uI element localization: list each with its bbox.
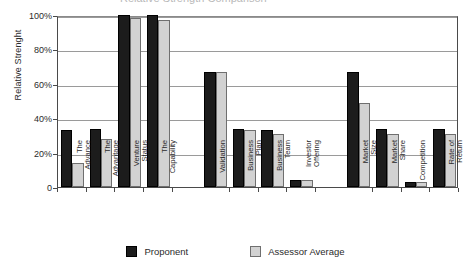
x-axis-label: Investor Offering [305, 140, 322, 192]
bar [61, 130, 72, 187]
y-axis-tickmark [53, 50, 57, 51]
legend-label: Proponent [144, 246, 188, 257]
clipped-title: Relative Strength Comparison [0, 0, 471, 8]
x-axis-label: Market Size [362, 140, 379, 192]
clipped-title-text: Relative Strength Comparison [120, 0, 267, 4]
y-axis-tickmark [53, 16, 57, 17]
y-axis-tick-label: 60% [0, 80, 52, 90]
x-axis-label: The Advantage [104, 140, 121, 192]
y-axis-tick-label: 100% [0, 11, 52, 21]
x-axis-label: The Capability [161, 140, 178, 192]
x-axis-label: Competition [419, 140, 427, 192]
y-axis-tickmark [53, 119, 57, 120]
bar [233, 129, 244, 187]
bar [347, 72, 358, 187]
bar-chart: Relative Strength Comparison Relative St… [0, 0, 471, 264]
x-axis-label: Market Share [391, 140, 408, 192]
bar [204, 72, 215, 187]
y-axis-tickmark [53, 85, 57, 86]
y-axis-tick-label: 20% [0, 149, 52, 159]
y-axis-tick-label: 80% [0, 45, 52, 55]
x-axis-label: Business Team [276, 140, 293, 192]
legend-label: Assessor Average [268, 246, 344, 257]
x-axis-label: The Advance [76, 140, 93, 192]
bar [433, 129, 444, 187]
legend-swatch [250, 246, 261, 257]
legend-item[interactable]: Assessor Average [250, 246, 344, 257]
legend-item[interactable]: Proponent [126, 246, 188, 257]
legend-swatch [126, 246, 137, 257]
x-axis-label: Business Plan [247, 140, 264, 192]
chart-legend: ProponentAssessor Average [0, 240, 471, 262]
x-axis-label: Validation [219, 140, 227, 192]
y-axis-tick-label: 40% [0, 114, 52, 124]
x-axis-label: Venture Status [133, 140, 150, 192]
x-axis-label: Rate of Return [448, 140, 465, 192]
y-axis-tickmark [53, 154, 57, 155]
x-axis-category-labels: The AdvanceThe AdvantageVenture StatusTh… [0, 190, 471, 240]
